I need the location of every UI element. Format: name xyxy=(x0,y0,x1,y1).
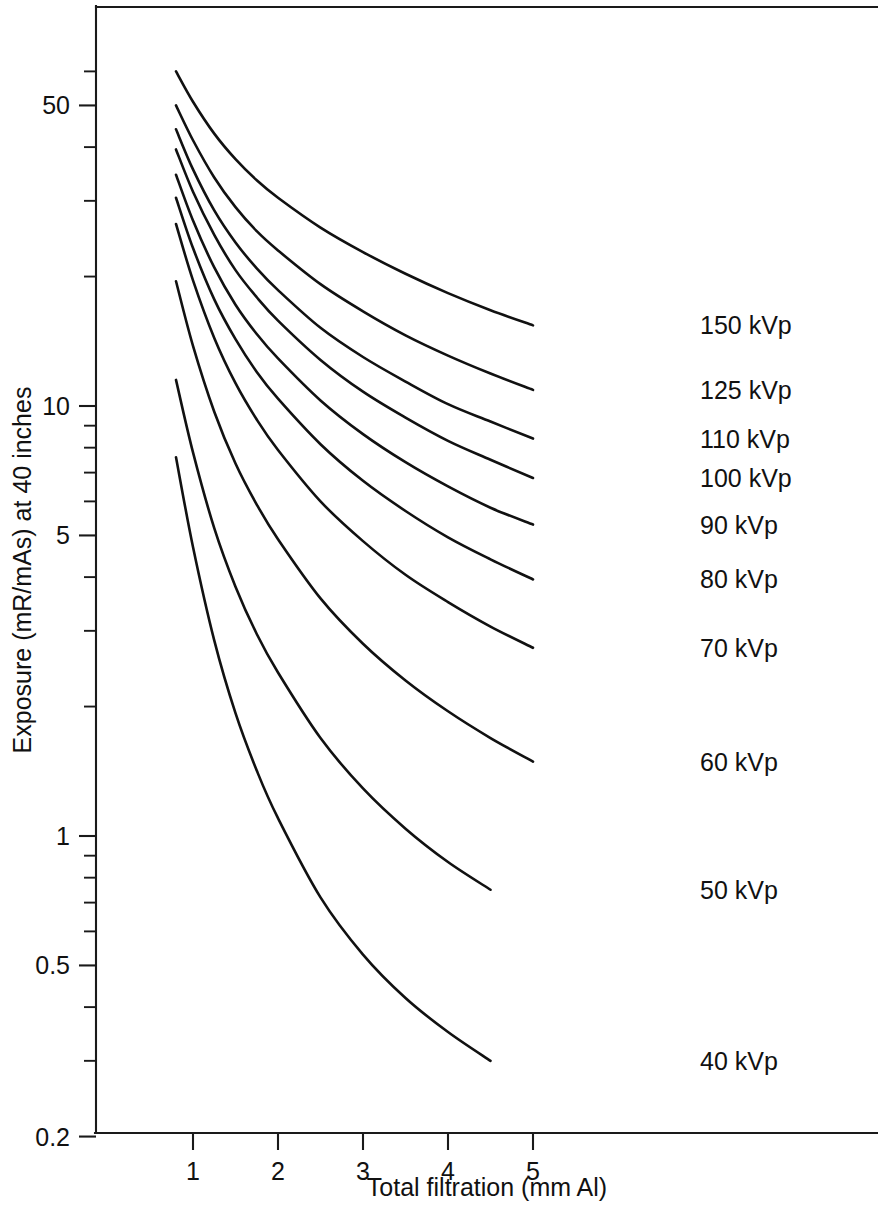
exposure-filtration-figure: 5010510.50.2 12345 150 kVp125 kVp110 kVp… xyxy=(0,0,878,1210)
y-tick-label: 0.2 xyxy=(35,1123,70,1151)
chart-background xyxy=(0,0,878,1210)
y-tick-label: 0.5 xyxy=(35,951,70,979)
series-label: 60 kVp xyxy=(700,748,778,776)
y-tick-label: 1 xyxy=(56,822,70,850)
series-label: 90 kVp xyxy=(700,511,778,539)
y-tick-label: 5 xyxy=(56,521,70,549)
x-tick-label: 2 xyxy=(271,1157,285,1185)
chart-canvas: 5010510.50.2 12345 150 kVp125 kVp110 kVp… xyxy=(0,0,878,1210)
y-tick-label: 10 xyxy=(42,392,70,420)
series-label: 70 kVp xyxy=(700,634,778,662)
x-axis-title: Total filtration (mm Al) xyxy=(367,1173,607,1201)
y-tick-label: 50 xyxy=(42,91,70,119)
x-tick-label: 1 xyxy=(186,1157,200,1185)
series-label: 125 kVp xyxy=(700,376,792,404)
series-label: 80 kVp xyxy=(700,565,778,593)
series-label: 50 kVp xyxy=(700,876,778,904)
series-label: 100 kVp xyxy=(700,464,792,492)
series-label: 150 kVp xyxy=(700,311,792,339)
series-label: 110 kVp xyxy=(700,425,790,453)
y-axis-title: Exposure (mR/mAs) at 40 inches xyxy=(8,387,36,754)
series-label: 40 kVp xyxy=(700,1047,778,1075)
